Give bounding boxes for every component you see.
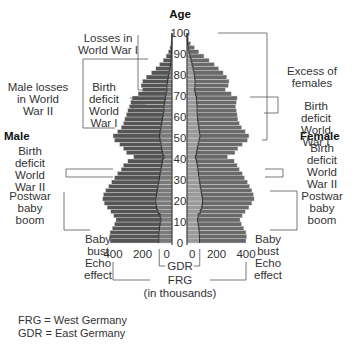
x-tick-left: 0 xyxy=(164,248,170,260)
bar-female-gdr xyxy=(187,134,200,138)
bar-male-gdr xyxy=(166,92,172,96)
age-tick: 70 xyxy=(174,90,187,102)
bar-female-gdr xyxy=(187,230,199,234)
bar-female-gdr xyxy=(187,193,202,197)
bar-male-gdr xyxy=(164,109,172,113)
annotation-leader xyxy=(270,191,297,230)
bar-female-gdr xyxy=(187,138,199,142)
bar-male-gdr xyxy=(163,113,172,117)
bar-female-gdr xyxy=(187,226,199,230)
bar-male-gdr xyxy=(159,235,172,239)
bar-female-gdr xyxy=(187,88,195,92)
bar-male-gdr xyxy=(162,146,172,150)
bar-female-gdr xyxy=(187,67,193,71)
bar-male-gdr xyxy=(162,117,172,121)
bar-male-gdr xyxy=(167,83,172,87)
bar-male-gdr xyxy=(158,184,172,188)
x-tick-left: 200 xyxy=(133,248,152,260)
bar-male-gdr xyxy=(158,209,172,213)
bar-female-gdr xyxy=(187,201,202,205)
bar-female-gdr xyxy=(187,109,197,113)
annotation-baby-bust-left: BabybustEchoeffect xyxy=(84,233,113,281)
bar-female-gdr xyxy=(187,214,198,218)
bar-female-gdr xyxy=(187,125,199,129)
bar-male-gdr xyxy=(161,218,172,222)
bar-female-gdr xyxy=(187,83,195,87)
bar-female-gdr xyxy=(187,100,197,104)
bar-female-gdr xyxy=(187,176,199,180)
bar-female-gdr xyxy=(187,205,202,209)
bar-female-gdr xyxy=(187,92,196,96)
x-tick-right: 200 xyxy=(207,248,226,260)
bar-male-gdr xyxy=(160,172,172,176)
bar-female-gdr xyxy=(187,197,202,201)
age-tick: 0 xyxy=(177,237,183,249)
bar-male-gdr xyxy=(162,159,172,163)
annotation-postwar-boom-left: Postwarbabyboom xyxy=(9,190,51,226)
age-tick: 10 xyxy=(174,216,187,228)
bar-male-gdr xyxy=(162,121,172,125)
bar-male-gdr xyxy=(161,142,172,146)
annotation-leader xyxy=(265,169,283,177)
bar-female-gdr xyxy=(187,151,197,155)
bar-male-gdr xyxy=(165,100,172,104)
bar-female-gdr xyxy=(187,172,199,176)
annotation-losses-ww1: Losses inWorld War I xyxy=(78,32,138,56)
bar-male-gdr xyxy=(159,180,172,184)
age-tick: 90 xyxy=(174,48,187,60)
bar-female-gdr xyxy=(187,104,197,108)
bar-female-gdr xyxy=(187,159,197,163)
age-tick: 60 xyxy=(174,111,187,123)
bar-female-gdr xyxy=(187,218,198,222)
bar-male-gdr xyxy=(159,239,172,243)
bar-female-gdr xyxy=(187,75,195,79)
annotation-baby-bust-right: BabybustEchoeffect xyxy=(254,233,283,281)
bar-female-gdr xyxy=(187,62,192,66)
units-label: (in thousands) xyxy=(144,287,217,299)
bar-male-gdr xyxy=(168,75,172,79)
bar-female-gdr xyxy=(187,184,200,188)
bar-male-gdr xyxy=(159,226,172,230)
age-tick: 80 xyxy=(174,69,187,81)
x-tick-right: 400 xyxy=(236,248,255,260)
bar-male-gdr xyxy=(162,151,172,155)
bar-male-gdr xyxy=(157,205,172,209)
bar-male-gdr xyxy=(160,222,172,226)
annotation-birth-deficit-ww2-right: BirthdeficitWorldWar II xyxy=(307,142,338,190)
age-tick: 50 xyxy=(174,132,187,144)
bar-male-gdr xyxy=(157,193,172,197)
bar-male-gdr xyxy=(168,79,172,83)
bar-male-gdr xyxy=(160,214,172,218)
bar-female-gdr xyxy=(187,79,195,83)
bar-male-gdr xyxy=(159,176,172,180)
age-tick: 30 xyxy=(174,174,187,186)
bar-male-gdr xyxy=(160,138,172,142)
bar-female-gdr xyxy=(187,167,198,171)
bar-male-gdr xyxy=(156,197,172,201)
bar-male-gdr xyxy=(159,230,172,234)
bar-male-gdr xyxy=(167,88,172,92)
bar-female-gdr xyxy=(187,130,199,134)
annotation-birth-deficit-ww1-left: BirthdeficitWorldWar I xyxy=(89,81,120,129)
age-tick: 100 xyxy=(170,27,189,39)
bar-female-gdr xyxy=(187,58,191,62)
annotation-excess-females: Excess offemales xyxy=(287,65,338,89)
bar-male-gdr xyxy=(164,155,172,159)
bar-female-gdr xyxy=(187,71,194,75)
chart-title: Age xyxy=(169,8,191,20)
bar-male-gdr xyxy=(164,104,172,108)
bar-female-gdr xyxy=(187,113,197,117)
population-pyramid-chart: Age010203040506070809010040020000200400G… xyxy=(0,0,353,347)
x-tick-right: 0 xyxy=(189,248,195,260)
bar-female-gdr xyxy=(187,146,197,150)
bar-female-gdr xyxy=(187,188,201,192)
male-label: Male xyxy=(4,130,30,142)
legend-gdr: GDR = East Germany xyxy=(18,327,125,339)
bar-female-gdr xyxy=(187,163,197,167)
bar-female-gdr xyxy=(187,239,200,243)
annotation-birth-deficit-ww2-left: BirthdeficitWorldWar II xyxy=(15,145,46,193)
bar-male-gdr xyxy=(161,167,172,171)
legend-frg: FRG = West Germany xyxy=(18,314,127,326)
annotation-male-losses-ww2: Male lossesin WorldWar II xyxy=(8,81,69,117)
bar-female-gdr xyxy=(187,117,198,121)
